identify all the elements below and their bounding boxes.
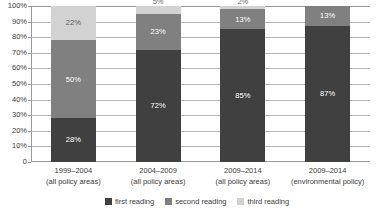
x-axis-category-line: (environmental policy) (285, 177, 370, 188)
y-axis-tick-label: 50% (12, 80, 27, 88)
bar-segment[interactable]: 13% (305, 6, 350, 26)
bar-segment[interactable]: 5% (136, 6, 181, 14)
bar-group[interactable]: 28%50%22% (51, 6, 96, 162)
y-axis-tick-label: 100% (8, 2, 27, 10)
legend-swatch-icon (105, 198, 112, 205)
bar-segment-value-label: 28% (66, 136, 81, 144)
bar-segment[interactable]: 72% (136, 50, 181, 162)
y-axis-tick-label: 0 (23, 158, 27, 166)
stacked-bar-chart: 100%90%80%70%60%50%40%30%20%10%0 28%50%2… (0, 0, 376, 217)
x-axis-labels: 1999–2004(all policy areas)2004–2009(all… (31, 166, 370, 192)
y-axis-tick-label: 80% (12, 33, 27, 41)
bars-layer: 28%50%22%72%23%5%85%13%2%87%13% (31, 6, 370, 162)
bar-segment-value-label: 87% (320, 90, 335, 98)
x-axis-category-line: (all policy areas) (116, 177, 201, 188)
x-axis-category-label: 2009–2014(all policy areas) (201, 166, 286, 188)
bar-segment-value-label: 50% (66, 76, 81, 84)
x-axis-category-label: 1999–2004(all policy areas) (31, 166, 116, 188)
bar-stack: 87%13% (305, 6, 350, 162)
x-axis-category-line: (all policy areas) (31, 177, 116, 188)
legend-label: third reading (247, 198, 289, 206)
bar-segment[interactable]: 28% (51, 118, 96, 162)
legend-swatch-icon (237, 198, 244, 205)
bar-group[interactable]: 85%13%2% (220, 6, 265, 162)
x-axis-category-line: 2004–2009 (116, 166, 201, 177)
bar-segment[interactable]: 87% (305, 26, 350, 162)
bar-stack: 85%13%2% (220, 6, 265, 162)
bar-stack: 28%50%22% (51, 6, 96, 162)
bar-group[interactable]: 72%23%5% (136, 6, 181, 162)
x-axis-category-line: 1999–2004 (31, 166, 116, 177)
x-axis-category-line: 2009–2014 (285, 166, 370, 177)
y-axis-tick-label: 10% (12, 143, 27, 151)
x-axis-category-label: 2004–2009(all policy areas) (116, 166, 201, 188)
bar-segment-value-label: 23% (151, 28, 166, 36)
bar-segment[interactable]: 2% (220, 6, 265, 9)
legend-label: first reading (115, 198, 154, 206)
bar-segment[interactable]: 22% (51, 6, 96, 40)
y-axis-tick-label: 40% (12, 96, 27, 104)
bar-segment-value-label: 72% (151, 102, 166, 110)
chart-legend: first readingsecond readingthird reading (105, 198, 289, 206)
x-axis-category-line: 2009–2014 (201, 166, 286, 177)
y-axis-tick (28, 162, 31, 163)
bar-segment-value-label: 5% (136, 0, 181, 5)
y-axis-tick-label: 20% (12, 127, 27, 135)
bar-segment[interactable]: 13% (220, 9, 265, 29)
bar-segment-value-label: 2% (220, 0, 265, 5)
y-axis-tick-label: 30% (12, 111, 27, 119)
y-axis: 100%90%80%70%60%50%40%30%20%10%0 (0, 0, 31, 168)
bar-segment-value-label: 13% (320, 12, 335, 20)
bar-segment[interactable]: 50% (51, 40, 96, 118)
bar-segment-value-label: 85% (235, 92, 250, 100)
legend-item[interactable]: third reading (237, 198, 289, 206)
y-axis-tick-label: 70% (12, 49, 27, 57)
x-axis-category-line: (all policy areas) (201, 177, 286, 188)
bar-segment-value-label: 22% (66, 19, 81, 27)
bar-stack: 72%23%5% (136, 6, 181, 162)
bar-segment-value-label: 13% (235, 16, 250, 24)
legend-item[interactable]: first reading (105, 198, 154, 206)
x-axis-category-label: 2009–2014(environmental policy) (285, 166, 370, 188)
legend-label: second reading (175, 198, 226, 206)
legend-item[interactable]: second reading (165, 198, 226, 206)
y-axis-tick-label: 90% (12, 18, 27, 26)
bar-group[interactable]: 87%13% (305, 6, 350, 162)
legend-swatch-icon (165, 198, 172, 205)
bar-segment[interactable]: 23% (136, 14, 181, 50)
bar-segment[interactable]: 85% (220, 29, 265, 162)
y-axis-tick-label: 60% (12, 65, 27, 73)
